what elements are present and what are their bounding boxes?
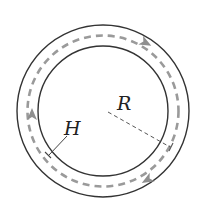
dashed-flow-path — [28, 36, 179, 187]
annular-ring-diagram: R H — [0, 0, 205, 208]
label-H: H — [63, 117, 81, 139]
inner-circle — [38, 46, 168, 176]
thickness-tick — [45, 152, 51, 158]
outer-circle — [17, 25, 189, 197]
label-R: R — [116, 92, 131, 114]
